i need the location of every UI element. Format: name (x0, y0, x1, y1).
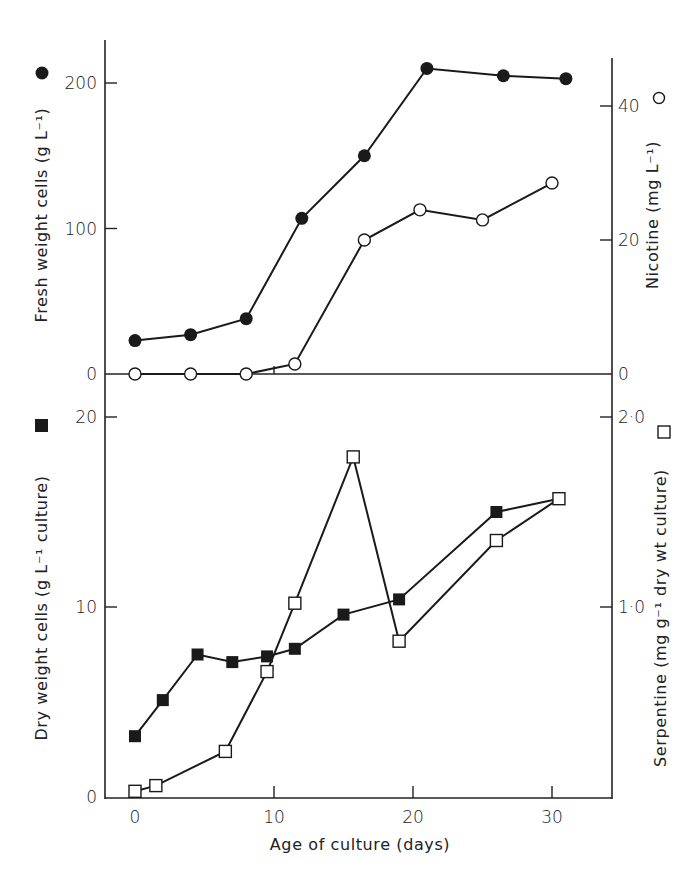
top-right-axis-title: Nicotine (mg L⁻¹) (643, 141, 662, 289)
series-dry-weight-cells (129, 493, 565, 743)
data-point-open-circle (129, 368, 141, 380)
data-point-open-circle (414, 204, 426, 216)
series-serpentine (129, 451, 565, 797)
data-point-open-circle (289, 358, 301, 370)
x-tick-label: 0 (130, 807, 141, 827)
bottom-left-tick-label: 20 (75, 407, 97, 427)
data-point-open-circle (240, 368, 252, 380)
bottom-right-tick-label: 2·0 (618, 407, 645, 427)
data-point-open-square (261, 666, 273, 678)
data-point-filled-circle (420, 62, 433, 75)
bottom-left-tick-label: 0 (86, 787, 97, 807)
data-point-open-square (553, 493, 565, 505)
open-circle-legend-icon (654, 93, 665, 104)
series-line (135, 68, 566, 340)
data-point-filled-circle (497, 69, 510, 82)
data-point-open-square (129, 785, 141, 797)
bottom-left-axis-title: Dry weight cells (g L⁻¹ culture) (32, 475, 51, 740)
top-right-tick-label: 40 (618, 96, 640, 116)
top-left-tick-label: 0 (86, 364, 97, 384)
data-point-open-circle (185, 368, 197, 380)
data-point-open-square (393, 635, 405, 647)
top-right-tick-label: 0 (618, 364, 629, 384)
series-layer (129, 62, 573, 797)
data-point-filled-circle (295, 212, 308, 225)
top-left-axis-title-text: Fresh weight cells (g L⁻¹) (32, 108, 51, 323)
data-point-open-circle (477, 214, 489, 226)
top-right-tick-label: 20 (618, 230, 640, 250)
series-line (135, 183, 552, 374)
data-point-filled-circle (184, 328, 197, 341)
bottom-right-axis-title-text: Serpentine (mg g⁻¹ dry wt culture) (651, 469, 670, 767)
data-point-filled-square (192, 649, 204, 661)
open-square-legend-icon (658, 426, 670, 438)
data-point-filled-circle (358, 149, 371, 162)
x-axis-title: Age of culture (days) (270, 835, 450, 854)
data-point-open-square (289, 597, 301, 609)
bottom-left-tick-label: 10 (75, 597, 97, 617)
x-tick-label: 20 (402, 807, 424, 827)
data-point-filled-square (226, 656, 238, 668)
series-nicotine (129, 177, 558, 380)
data-point-open-square (219, 745, 231, 757)
bottom-left-axis-title-text: Dry weight cells (g L⁻¹ culture) (32, 475, 51, 740)
data-point-filled-square (129, 730, 141, 742)
chart-figure: 0102030010020002040010201·02·0 Age of cu… (0, 0, 697, 883)
top-left-axis-title: Fresh weight cells (g L⁻¹) (32, 108, 51, 323)
axis-ticks (105, 83, 612, 798)
data-point-open-circle (546, 177, 558, 189)
bottom-right-axis-title: Serpentine (mg g⁻¹ dry wt culture) (651, 469, 670, 767)
bottom-right-tick-label: 1·0 (618, 597, 645, 617)
series-fresh-weight-cells (129, 62, 573, 347)
data-point-open-square (490, 535, 502, 547)
data-point-open-square (150, 780, 162, 792)
data-point-filled-circle (129, 334, 142, 347)
top-left-tick-label: 200 (65, 73, 97, 93)
data-point-filled-square (289, 643, 301, 655)
top-right-axis-title-text: Nicotine (mg L⁻¹) (643, 141, 662, 289)
data-point-filled-square (157, 694, 169, 706)
x-tick-label: 10 (263, 807, 285, 827)
data-point-filled-circle (559, 72, 572, 85)
data-point-open-circle (358, 234, 370, 246)
data-point-filled-square (393, 593, 405, 605)
filled-circle-legend-icon (36, 67, 49, 80)
x-tick-label: 30 (541, 807, 563, 827)
data-point-filled-square (338, 609, 350, 621)
top-left-tick-label: 100 (65, 219, 97, 239)
data-point-open-square (347, 451, 359, 463)
filled-square-legend-icon (35, 419, 48, 432)
data-point-filled-square (490, 506, 502, 518)
data-point-filled-circle (240, 312, 253, 325)
